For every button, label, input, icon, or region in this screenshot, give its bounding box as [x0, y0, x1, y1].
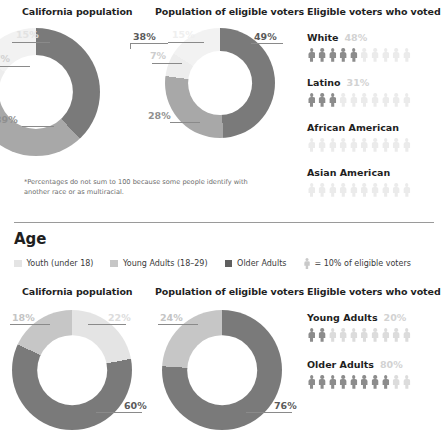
age-chart2-label-76: 76%: [274, 400, 297, 411]
pictogram-row-pct: 48%: [344, 32, 367, 43]
race-chart2-leader-49: [251, 43, 283, 44]
person-icon: [371, 183, 380, 197]
age-section-divider: [14, 222, 434, 223]
person-icon: [392, 375, 401, 389]
age-voted-title: Eligible voters who voted: [307, 286, 441, 297]
pictogram-row: Older Adults80%: [307, 353, 411, 389]
person-icon: [318, 183, 327, 197]
race-chart2-label-15: 15%: [172, 29, 195, 40]
race-chart1-leader-39: [22, 126, 54, 127]
pictogram-figures: [307, 138, 411, 152]
pictogram-row-label: White: [307, 32, 338, 43]
person-icon: [318, 375, 327, 389]
pictogram-row: Latino31%: [307, 71, 411, 107]
person-icon: [328, 183, 337, 197]
person-icon: [402, 328, 411, 342]
race-chart1-label-15: 15%: [16, 29, 39, 40]
person-icon: [381, 93, 390, 107]
race-footnote: *Percentages do not sum to 100 because s…: [24, 178, 256, 198]
person-icon: [318, 48, 327, 62]
race-chart1-label-39: 39%: [0, 114, 18, 125]
race-voted-rows: White48%Latino31%African AmericanAsian A…: [307, 26, 411, 206]
legend-note: = 10% of eligible voters: [314, 259, 410, 268]
pictogram-row-pct: 20%: [384, 312, 407, 323]
age-chart2-label-24: 24%: [160, 312, 183, 323]
person-icon: [307, 328, 316, 342]
pictogram-row-label: Older Adults: [307, 359, 374, 370]
pictogram-figures: [307, 328, 411, 342]
person-icon: [371, 138, 380, 152]
person-icon: [349, 183, 358, 197]
person-icon: [360, 93, 369, 107]
legend-item-older-adults: Older Adults: [225, 259, 287, 268]
legend-swatch-young-adults: [110, 260, 118, 268]
person-icon: [303, 258, 310, 269]
pictogram-row-label: African American: [307, 122, 399, 133]
person-icon: [318, 138, 327, 152]
race-chart2-leader-7: [152, 63, 182, 64]
pictogram-figures: [307, 183, 411, 197]
person-icon: [371, 328, 380, 342]
age-chart1-leader-60: [96, 412, 142, 413]
pictogram-figures: [307, 48, 411, 62]
pictogram-row: White48%: [307, 26, 411, 62]
pictogram-row-label: Asian American: [307, 167, 390, 178]
race-voted-title: Eligible voters who voted: [307, 6, 441, 17]
race-chart1-leader-38: [130, 43, 168, 44]
race-chart1-label-7: 7%: [0, 53, 10, 64]
person-icon: [360, 328, 369, 342]
age-chart2-title: Population of eligible voters: [155, 286, 304, 297]
person-icon: [402, 93, 411, 107]
person-icon: [339, 93, 348, 107]
race-chart1-label-38: 38%: [133, 31, 156, 42]
age-voted-rows: Young Adults20%Older Adults80%: [307, 306, 411, 400]
age-section-title: Age: [14, 230, 47, 248]
person-icon: [381, 328, 390, 342]
pictogram-row: Asian American: [307, 161, 411, 197]
legend-label-older-adults: Older Adults: [237, 259, 286, 268]
race-chart2-label-7: 7%: [150, 50, 166, 61]
pictogram-figures: [307, 375, 411, 389]
person-icon: [371, 93, 380, 107]
person-icon: [392, 93, 401, 107]
person-icon: [349, 375, 358, 389]
age-chart1-label-18: 18%: [12, 312, 35, 323]
person-icon: [381, 138, 390, 152]
age-chart1-label-60: 60%: [124, 400, 147, 411]
person-icon: [360, 138, 369, 152]
person-icon: [381, 375, 390, 389]
legend-label-youth: Youth (under 18): [27, 259, 94, 268]
race-chart1-leader-7: [0, 66, 30, 67]
person-icon: [328, 48, 337, 62]
person-icon: [349, 138, 358, 152]
pictogram-row: African American: [307, 116, 411, 152]
person-icon: [402, 375, 411, 389]
person-icon: [392, 138, 401, 152]
pictogram-row-label: Young Adults: [307, 312, 378, 323]
legend-item-young-adults: Young Adults (18–29): [110, 259, 207, 268]
age-chart1-leader-18: [10, 324, 50, 325]
age-chart1-leader-22: [88, 324, 126, 325]
pictogram-figures: [307, 93, 411, 107]
person-icon: [402, 138, 411, 152]
person-icon: [339, 138, 348, 152]
person-icon: [349, 48, 358, 62]
race-chart1-title: California population: [22, 6, 133, 17]
person-icon: [371, 375, 380, 389]
person-icon: [392, 328, 401, 342]
person-icon: [360, 375, 369, 389]
race-chart1-leader-38-tick: [130, 43, 131, 49]
person-icon: [328, 328, 337, 342]
age-legend: Youth (under 18) Young Adults (18–29) Ol…: [14, 258, 411, 269]
pictogram-row-pct: 31%: [347, 77, 370, 88]
race-chart2-leader-15: [168, 42, 204, 43]
person-icon: [307, 183, 316, 197]
legend-item-figure-note: = 10% of eligible voters: [303, 258, 410, 269]
person-icon: [318, 328, 327, 342]
age-chart2-leader-24: [158, 324, 198, 325]
age-chart1-label-22: 22%: [108, 312, 131, 323]
age-chart1-title: California population: [22, 286, 133, 297]
person-icon: [392, 48, 401, 62]
pictogram-row-label: Latino: [307, 77, 341, 88]
person-icon: [349, 93, 358, 107]
